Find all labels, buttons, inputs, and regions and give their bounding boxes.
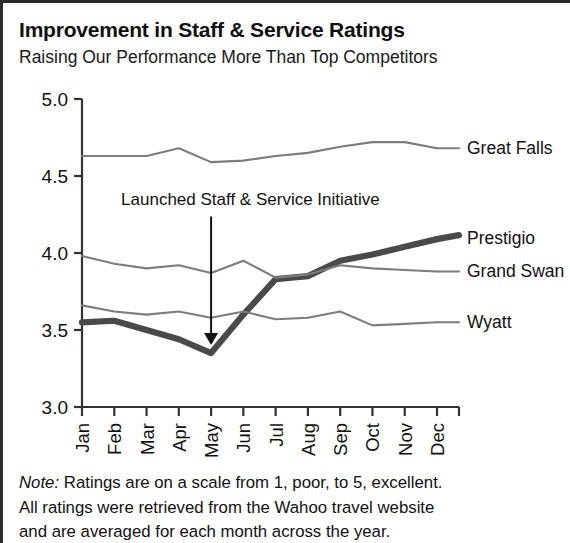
series-label-grand-swan: Grand Swan [467, 261, 564, 281]
chart-figure: Improvement in Staff & Service Ratings R… [0, 0, 570, 543]
note-line-2: All ratings were retrieved from the Waho… [19, 496, 565, 521]
x-axis-tick-label: Apr [169, 423, 190, 452]
series-label-prestigio: Prestigio [467, 228, 535, 248]
x-axis: JanFebMarAprMayJunJulAugSepOctNovDec [72, 407, 459, 458]
series-line [82, 256, 437, 278]
series-leader-line [437, 235, 459, 239]
annotation-text: Launched Staff & Service Initiative [121, 190, 380, 209]
series-labels: Great FallsPrestigioGrand SwanWyatt [467, 138, 564, 332]
x-axis-tick-label: Dec [427, 423, 448, 456]
y-axis-tick-label: 4.0 [42, 243, 68, 264]
x-axis-tick-label: Feb [104, 423, 125, 455]
series-label-great-falls: Great Falls [467, 138, 553, 158]
y-axis-tick-label: 4.5 [42, 166, 68, 187]
note-line-1-rest: Ratings are on a scale from 1, poor, to … [59, 473, 442, 492]
note-line-1: Note: Ratings are on a scale from 1, poo… [19, 471, 565, 496]
x-axis-tick-label: Nov [395, 422, 416, 456]
note-lead: Note: [19, 473, 59, 492]
note-line-3: and are averaged for each month across t… [19, 520, 565, 543]
x-axis-tick-label: Jun [233, 423, 254, 453]
series-lines [82, 142, 459, 353]
x-axis-tick-label: Jul [266, 423, 287, 447]
plot-area: 5.04.54.03.53.0 JanFebMarAprMayJunJulAug… [3, 83, 570, 468]
y-axis: 5.04.54.03.53.0 [42, 89, 82, 418]
series-line [82, 142, 437, 162]
y-axis-tick-label: 3.0 [42, 397, 68, 418]
x-axis-tick-label: Sep [330, 423, 351, 456]
series-line [82, 239, 437, 353]
x-axis-tick-label: Oct [362, 423, 383, 452]
series-line [82, 305, 437, 325]
line-chart-svg: 5.04.54.03.53.0 JanFebMarAprMayJunJulAug… [3, 83, 570, 468]
x-axis-tick-label: Jan [72, 423, 93, 453]
figure-note: Note: Ratings are on a scale from 1, poo… [19, 471, 565, 543]
y-axis-tick-label: 5.0 [42, 89, 68, 110]
y-axis-tick-label: 3.5 [42, 320, 68, 341]
x-axis-tick-label: May [201, 422, 222, 458]
series-label-wyatt: Wyatt [467, 312, 512, 332]
page-title: Improvement in Staff & Service Ratings [19, 17, 559, 43]
x-axis-tick-label: Mar [137, 423, 158, 455]
chart-subtitle: Raising Our Performance More Than Top Co… [19, 45, 559, 69]
x-axis-tick-label: Aug [298, 423, 319, 456]
title-block: Improvement in Staff & Service Ratings R… [19, 17, 559, 69]
